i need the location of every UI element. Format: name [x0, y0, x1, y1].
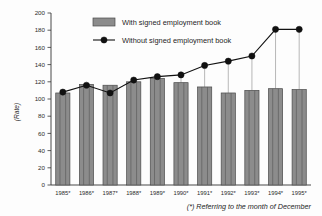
line-marker [60, 89, 66, 95]
y-axis-title: (Rate) [13, 103, 21, 121]
bar [268, 89, 282, 185]
legend-marker-dot [101, 37, 107, 43]
line-marker [296, 26, 302, 32]
x-tick-label: 1989* [150, 190, 166, 196]
y-tick-label: 100 [35, 95, 46, 102]
bar [245, 90, 259, 185]
legend-swatch-bar [93, 18, 115, 26]
bar [174, 83, 188, 185]
line-marker [107, 90, 113, 96]
chart-footnote: (*) Referring to the month of December [187, 202, 312, 211]
y-tick-label: 20 [38, 164, 45, 171]
x-tick-label: 1992* [221, 190, 237, 196]
x-tick-label: 1994* [268, 190, 284, 196]
bar [150, 78, 164, 185]
y-tick-label: 40 [38, 147, 45, 154]
y-tick-label: 140 [35, 61, 46, 68]
line-marker [131, 77, 137, 83]
x-tick-label: 1990* [173, 190, 189, 196]
y-tick-label: 60 [38, 130, 45, 137]
y-tick-label: 160 [35, 44, 46, 51]
y-tick-label: 80 [38, 112, 45, 119]
y-tick-label: 180 [35, 26, 46, 33]
line-marker [272, 26, 278, 32]
legend-label-without-book: Without signed employment book [122, 36, 232, 45]
x-tick-label: 1988* [126, 190, 142, 196]
x-tick-label: 1991* [197, 190, 213, 196]
bar [292, 90, 306, 185]
bar [127, 82, 141, 185]
y-tick-label: 0 [42, 181, 46, 188]
x-tick-label: 1986* [79, 190, 95, 196]
line-marker [178, 72, 184, 78]
x-tick-label: 1985* [55, 190, 71, 196]
bar [221, 93, 235, 185]
chart-container: 020406080100120140160180200 1985*1986*19… [0, 0, 322, 216]
bar-series [56, 78, 307, 185]
line-marker [154, 74, 160, 80]
x-tick-label: 1993* [244, 190, 260, 196]
x-tick-label: 1987* [103, 190, 119, 196]
line-marker [83, 82, 89, 88]
x-tick-label: 1995* [292, 190, 308, 196]
bar [56, 93, 70, 185]
chart-svg: 020406080100120140160180200 1985*1986*19… [0, 0, 322, 216]
y-tick-label: 200 [35, 9, 46, 16]
line-marker [202, 62, 208, 68]
y-tick-label: 120 [35, 78, 46, 85]
bar [79, 84, 93, 185]
line-marker [225, 58, 231, 64]
legend-label-with-book: With signed employment book [122, 18, 221, 27]
bar [198, 87, 212, 185]
bar [103, 85, 117, 185]
x-axis-ticks: 1985*1986*1987*1988*1989*1990*1991*1992*… [55, 190, 307, 196]
line-marker [249, 53, 255, 59]
